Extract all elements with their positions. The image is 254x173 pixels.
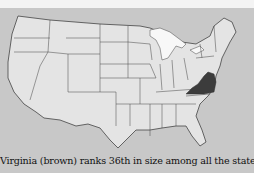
us-map xyxy=(0,8,254,156)
top-margin xyxy=(0,0,254,8)
map-caption: Virginia (brown) ranks 36th in size amon… xyxy=(0,155,254,166)
